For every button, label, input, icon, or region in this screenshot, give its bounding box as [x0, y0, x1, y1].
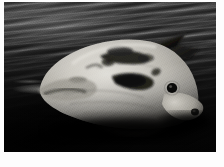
ocean-sunfish — [4, 2, 216, 152]
photograph — [4, 2, 216, 152]
photo-stage — [0, 0, 224, 167]
